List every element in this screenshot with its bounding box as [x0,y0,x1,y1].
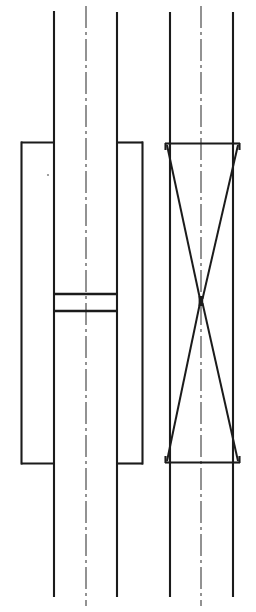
sheet-background [0,0,256,612]
crossing-waist-blob [199,296,204,306]
scan-speck [47,174,49,176]
drawing-canvas [0,0,256,612]
drawing-sheet [0,0,256,612]
